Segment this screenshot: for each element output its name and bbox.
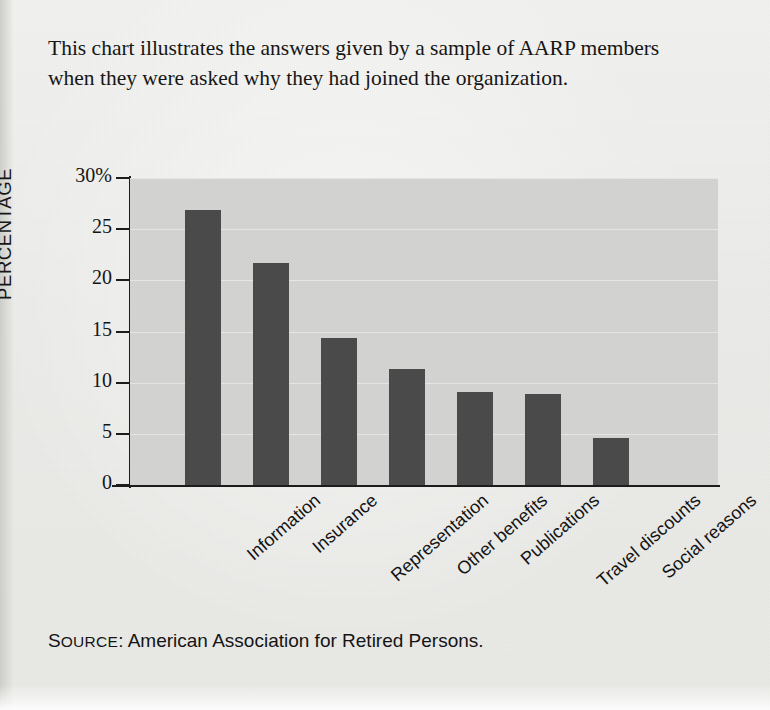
y-axis-tick-label: 15	[92, 318, 112, 341]
y-axis-tick-label: 20	[92, 266, 112, 289]
y-axis-tick-label: 30%	[75, 164, 112, 187]
x-axis-line	[112, 485, 720, 487]
y-axis-tick-label: 25	[92, 215, 112, 238]
bar	[253, 263, 289, 485]
y-axis-tick-label: 5	[102, 420, 112, 443]
bar	[525, 394, 561, 485]
figure-page: This chart illustrates the answers given…	[0, 0, 770, 710]
x-axis-category-labels: InformationInsuranceRepresentationOther …	[130, 490, 730, 610]
x-axis-label: Information	[243, 490, 325, 565]
bar	[321, 338, 357, 485]
y-axis-tick-label: 0	[102, 471, 112, 494]
source-text: American Association for Retired Persons…	[128, 630, 484, 651]
y-axis-tick-label: 10	[92, 369, 112, 392]
source-note: SOURCE: American Association for Retired…	[48, 630, 484, 652]
x-axis-label: Representation	[387, 490, 493, 586]
bar	[185, 210, 221, 485]
bar-chart: PERCENTAGE 051015202530% InformationInsu…	[0, 150, 770, 610]
bar	[457, 392, 493, 485]
page-edge-shadow-bottom	[0, 684, 770, 710]
bar	[593, 438, 629, 485]
plot-area	[130, 178, 718, 485]
bars-layer	[130, 178, 718, 485]
y-axis-title: PERCENTAGE	[0, 168, 16, 300]
source-label: SOURCE:	[48, 630, 123, 651]
chart-caption: This chart illustrates the answers given…	[48, 34, 698, 93]
bar	[389, 369, 425, 485]
